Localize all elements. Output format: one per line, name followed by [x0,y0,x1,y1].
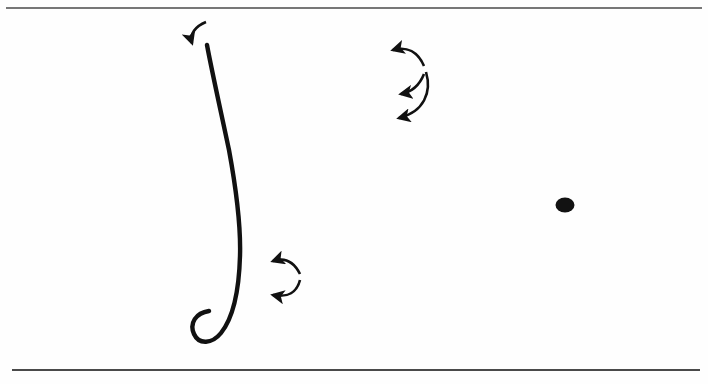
chondroitin-sulfate-arrows [393,49,428,118]
keratan-sulfate-arrows [273,260,300,296]
core-protein-arrow [191,22,206,43]
diagram-canvas [0,0,708,384]
top-view-core-hub [556,198,575,213]
core-protein-backbone [192,45,240,342]
proteoglycan-diagram [0,0,708,384]
